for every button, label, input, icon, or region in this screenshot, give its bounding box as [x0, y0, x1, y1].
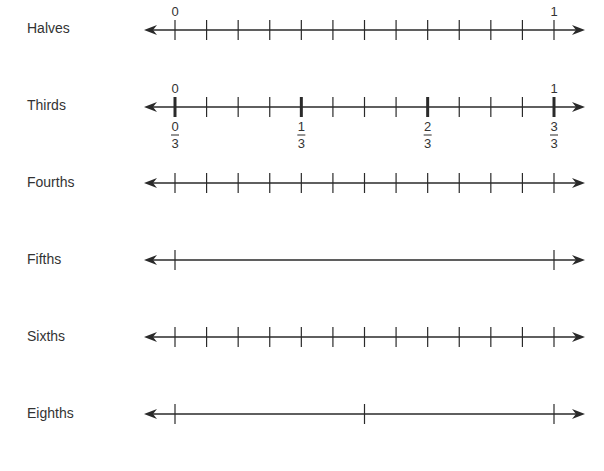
number-line-thirds: 0103132333: [144, 81, 585, 151]
fraction-denominator: 3: [171, 136, 178, 151]
fraction-numerator: 2: [424, 119, 431, 134]
label-one: 1: [550, 81, 557, 96]
number-line-eighths: [144, 404, 585, 424]
fraction-numerator: 3: [550, 119, 557, 134]
fraction-denominator: 3: [550, 136, 557, 151]
label-zero: 0: [171, 4, 178, 19]
number-lines-diagram: 010103132333: [0, 0, 604, 471]
label-zero: 0: [171, 81, 178, 96]
fraction-numerator: 0: [171, 119, 178, 134]
number-line-fourths: [144, 173, 585, 193]
label-one: 1: [550, 4, 557, 19]
number-line-halves: 01: [144, 4, 585, 40]
number-line-sixths: [144, 327, 585, 347]
fraction-denominator: 3: [424, 136, 431, 151]
fraction-denominator: 3: [298, 136, 305, 151]
number-line-fifths: [144, 250, 585, 270]
fraction-numerator: 1: [298, 119, 305, 134]
